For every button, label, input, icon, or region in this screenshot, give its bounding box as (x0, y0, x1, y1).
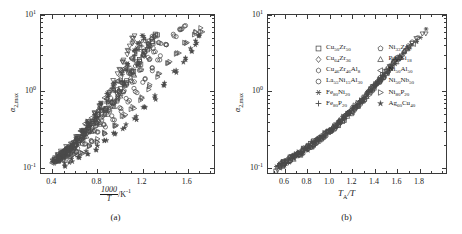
y-tick-label: 100 (233, 85, 263, 96)
plus-marker-icon (314, 99, 323, 108)
axis-tick (268, 122, 270, 123)
legend-label: Ni80P20 (388, 88, 409, 98)
legend-item-Cu50Zr50[interactable]: Cu50Zr50 (314, 43, 362, 53)
axis-tick (386, 15, 387, 17)
axis-tick (397, 15, 398, 19)
axis-tick (442, 171, 443, 173)
axis-tick (319, 171, 320, 173)
axis-tick (41, 38, 43, 39)
axis-tick (212, 108, 214, 109)
axis-tick (296, 15, 297, 17)
legend-item-Fe80Ni20[interactable]: Fe80Ni20 (314, 88, 362, 98)
axis-tick (444, 103, 446, 104)
axis-tick (41, 131, 43, 132)
legend-label: Ag60Cu40 (388, 99, 415, 109)
axis-tick (364, 15, 365, 17)
axis-tick (41, 15, 45, 16)
axis-tick (188, 169, 189, 173)
axis-tick (41, 108, 43, 109)
axis-tick (188, 15, 189, 19)
axis-tick (109, 15, 110, 17)
axis-tick (409, 15, 410, 17)
axis-tick (375, 15, 376, 19)
legend-item-Ni33Zr67[interactable]: Ni33Zr67 (376, 43, 415, 53)
axis-tick (442, 168, 446, 169)
legend-item-Cu64Zr36[interactable]: Cu64Zr36 (314, 54, 362, 64)
axis-tick (364, 171, 365, 173)
panel-b-y-axis-title: α2,max (233, 93, 244, 112)
legend-label: Fe80Ni20 (326, 88, 350, 98)
axis-tick (131, 15, 132, 17)
axis-tick (86, 15, 87, 17)
axis-tick (444, 95, 446, 96)
legend-label: La55Ni15Al30 (326, 76, 362, 86)
axis-tick (120, 171, 121, 173)
axis-tick (420, 169, 421, 173)
y-tick-label: 100 (8, 85, 36, 96)
axis-tick (444, 108, 446, 109)
axis-tick (212, 45, 214, 46)
axis-tick (409, 171, 410, 173)
panel-a-tag: (a) (0, 212, 231, 222)
axis-tick (41, 145, 43, 146)
axis-tick (442, 15, 446, 16)
legend-item-Fe80P20[interactable]: Fe80P20 (314, 99, 362, 109)
x-tick-label: 1.8 (414, 177, 424, 186)
axis-tick (120, 15, 121, 17)
star-marker-icon (376, 99, 385, 108)
axis-tick (41, 45, 43, 46)
axis-tick (444, 99, 446, 100)
axis-tick (41, 27, 43, 28)
axis-tick (268, 18, 270, 19)
axis-tick (109, 171, 110, 173)
axis-tick (210, 91, 214, 92)
panel-b-tag: (b) (231, 212, 462, 222)
x-tick-label: 1.6 (391, 177, 401, 186)
axis-tick (307, 169, 308, 173)
axis-tick (268, 99, 270, 100)
pentagon-marker-icon (376, 44, 385, 53)
axis-tick (444, 18, 446, 19)
triangle-down-marker-icon (376, 77, 385, 86)
y-tick-label: 10-1 (233, 161, 263, 172)
axis-tick (444, 131, 446, 132)
axis-tick (212, 131, 214, 132)
legend-item-Pd82Si18[interactable]: Pd82Si18 (376, 54, 415, 64)
legend-item-La55Ni15Al30[interactable]: La55Ni15Al30 (314, 76, 362, 86)
legend-item-Ag60Cu40[interactable]: Ag60Cu40 (376, 99, 415, 109)
axis-tick (444, 27, 446, 28)
axis-tick (268, 32, 270, 33)
axis-tick (386, 171, 387, 173)
axis-tick (52, 15, 53, 19)
axis-tick (41, 99, 43, 100)
legend-label: Fe80P20 (326, 99, 347, 109)
axis-tick (210, 15, 214, 16)
legend-item-Ni50Nb50[interactable]: Ni50Nb50 (376, 76, 415, 86)
axis-tick (352, 15, 353, 19)
axis-tick (442, 91, 446, 92)
axis-tick (397, 169, 398, 173)
axis-tick (52, 169, 53, 173)
axis-tick (64, 171, 65, 173)
legend-label: Ni50Al50 (388, 65, 412, 75)
axis-tick (444, 45, 446, 46)
axis-tick (210, 168, 214, 169)
x-tick-label: 1.4 (369, 177, 379, 186)
axis-tick (268, 108, 270, 109)
legend-item-Cu46Zr46Al8[interactable]: Cu46Zr46Al8 (314, 65, 362, 75)
x-axis-symbol: TA/T (338, 188, 355, 198)
axis-tick (165, 171, 166, 173)
axis-tick (444, 38, 446, 39)
axis-tick (268, 131, 270, 132)
axis-tick (75, 15, 76, 17)
legend-label: Ni50Nb50 (388, 76, 414, 86)
square-marker-icon (314, 44, 323, 53)
axis-tick (268, 145, 270, 146)
axis-tick (97, 15, 98, 19)
legend-item-Ni50Al50[interactable]: Ni50Al50 (376, 65, 415, 75)
legend-item-Ni80P20[interactable]: Ni80P20 (376, 88, 415, 98)
triangle-left-marker-icon (376, 66, 385, 75)
axis-tick (268, 22, 270, 23)
axis-tick (285, 169, 286, 173)
axis-tick (341, 171, 342, 173)
